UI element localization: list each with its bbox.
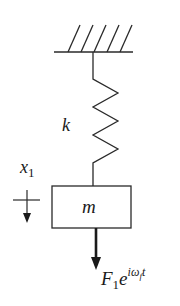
arrowhead-icon [23, 213, 31, 223]
force-label: F1eiωft [100, 265, 146, 292]
force-arrowhead-icon [91, 257, 101, 270]
displacement-label: x1 [19, 157, 35, 180]
force-indicator: F1eiωft [91, 228, 146, 292]
hatch-line [107, 25, 119, 52]
displacement-indicator: x1 [13, 157, 40, 223]
spring-mass-diagram: k m x1 F1eiωft [0, 0, 180, 306]
fixed-support [54, 25, 133, 52]
mass-label: m [82, 196, 96, 217]
hatch-line [120, 25, 132, 52]
spring [93, 52, 118, 186]
hatch-line [68, 25, 80, 52]
hatch-line [81, 25, 93, 52]
spring-constant-label: k [62, 115, 71, 135]
hatch-line [94, 25, 106, 52]
